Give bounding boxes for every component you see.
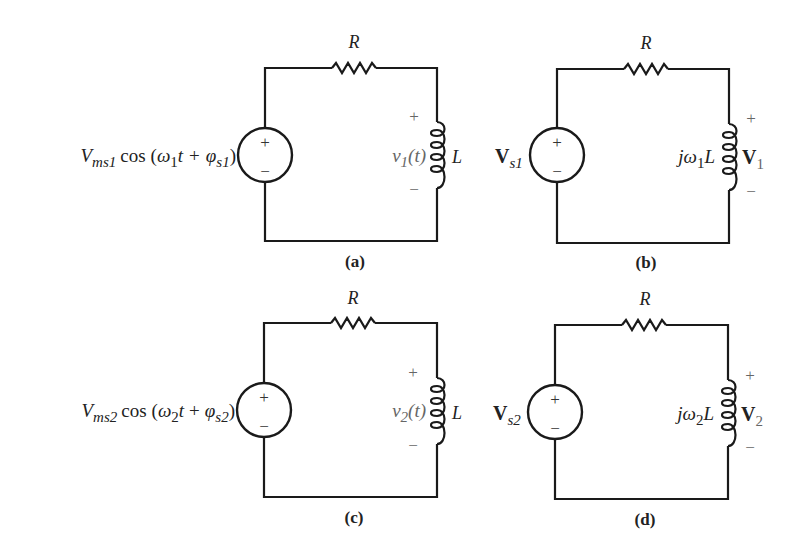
source-expression: Vms2cos(ω2t+φs2)	[81, 400, 235, 425]
resistor-icon	[622, 320, 666, 330]
resistor-icon	[331, 318, 375, 328]
svg-text:V1: V1	[742, 146, 764, 172]
inductor-label: L	[451, 147, 462, 167]
svg-text:+: +	[745, 366, 755, 385]
svg-text:−: −	[746, 182, 756, 201]
inductor-icon	[723, 124, 737, 190]
panel-a: R L + − Vms1cos(ω1t+φs1) + v1(t) − (a)	[80, 32, 462, 271]
impedance-label: jω1L	[675, 146, 715, 171]
output-voltage-label: + V1 −	[742, 109, 764, 201]
resistor-label: R	[640, 33, 652, 53]
svg-text:+: +	[408, 363, 418, 382]
output-voltage-label: + V2 −	[741, 366, 763, 457]
svg-text:−: −	[259, 417, 269, 436]
circuit-figure: R L + − Vms1cos(ω1t+φs1) + v1(t) − (a) R	[0, 0, 809, 552]
svg-text:+: +	[746, 109, 756, 128]
caption-a: (a)	[345, 252, 365, 271]
panel-b: R jω1L + − Vs1 + V1 − (b)	[495, 33, 764, 272]
svg-text:−: −	[745, 438, 755, 457]
voltage-source-icon: + −	[238, 128, 292, 182]
source-phasor-label: Vs1	[495, 145, 523, 171]
source-expression: Vms1cos(ω1t+φs1)	[80, 145, 236, 170]
svg-text:+: +	[409, 107, 419, 126]
caption-d: (d)	[635, 510, 656, 529]
svg-text:−: −	[550, 419, 560, 438]
svg-text:−: −	[552, 162, 562, 181]
panel-d: R jω2L + − Vs2 + V2 − (d)	[493, 289, 763, 529]
source-phasor-label: Vs2	[493, 402, 521, 428]
caption-b: (b)	[636, 253, 657, 272]
output-voltage-label: + v2(t) −	[392, 363, 426, 455]
svg-text:+: +	[260, 133, 270, 152]
svg-text:−: −	[408, 436, 418, 455]
svg-text:+: +	[550, 390, 560, 409]
caption-c: (c)	[345, 508, 364, 527]
resistor-label: R	[348, 32, 360, 52]
resistor-label: R	[639, 289, 651, 309]
output-voltage-label: + v1(t) −	[392, 107, 426, 199]
svg-text:v2(t): v2(t)	[392, 400, 426, 425]
voltage-source-icon: + −	[237, 383, 291, 437]
inductor-icon	[722, 380, 736, 446]
inductor-label: L	[451, 403, 462, 423]
svg-text:−: −	[409, 180, 419, 199]
resistor-label: R	[347, 288, 359, 308]
inductor-icon	[431, 122, 445, 188]
svg-text:−: −	[260, 162, 270, 181]
panel-c: R L + − Vms2cos(ω2t+φs2) + v2(t) − (c)	[81, 288, 462, 527]
voltage-source-icon: + −	[528, 385, 582, 439]
inductor-icon	[431, 378, 445, 444]
resistor-icon	[332, 63, 376, 73]
svg-text:+: +	[552, 133, 562, 152]
resistor-icon	[624, 64, 668, 74]
svg-text:V2: V2	[741, 403, 763, 429]
impedance-label: jω2L	[674, 403, 714, 428]
voltage-source-icon: + −	[530, 128, 584, 182]
svg-text:+: +	[259, 388, 269, 407]
svg-text:v1(t): v1(t)	[392, 145, 426, 170]
